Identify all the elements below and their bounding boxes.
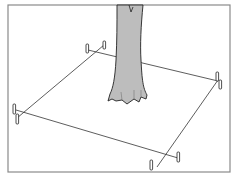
stake-front-right: [177, 152, 180, 162]
stake-back-right: [103, 41, 106, 49]
stake-left-bottom: [16, 114, 19, 124]
diagram-canvas: [0, 0, 234, 184]
stake-right-bottom: [219, 80, 222, 89]
stake-front-left: [150, 160, 153, 170]
stake-back-left: [86, 44, 89, 53]
stake-right-top: [216, 72, 219, 81]
stake-left-top: [13, 104, 16, 114]
